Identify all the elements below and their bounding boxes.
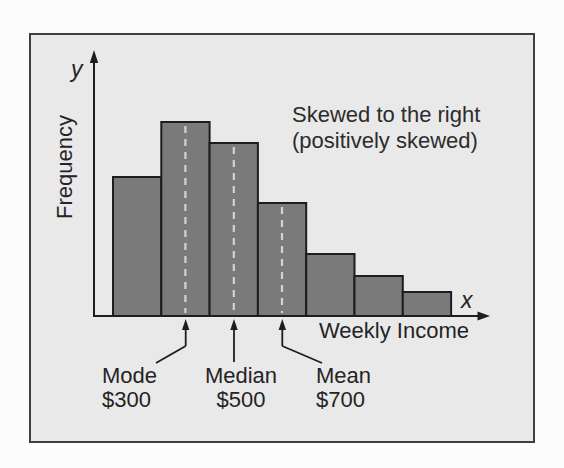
y-axis-label: Frequency [52, 115, 78, 219]
median-callout: Median $500 [202, 364, 280, 412]
skew-annotation-line1: Skewed to the right [292, 102, 480, 128]
mean-label: Mean [316, 364, 371, 388]
mode-callout: Mode $300 [102, 364, 157, 412]
histogram-svg [0, 0, 564, 468]
x-axis-label: Weekly Income [319, 318, 469, 344]
histogram-bar [403, 292, 451, 316]
x-axis-symbol: x [461, 287, 473, 314]
histogram-bar [355, 276, 403, 316]
mode-label: Mode [102, 364, 157, 388]
mean-callout-arrow [279, 319, 322, 363]
histogram-bar [113, 177, 161, 316]
mean-callout: Mean $700 [316, 364, 371, 412]
median-value: $500 [202, 388, 280, 412]
median-label: Median [202, 364, 280, 388]
y-axis-arrowhead-icon [90, 50, 98, 63]
figure-stage: y Frequency Skewed to the right (positiv… [0, 0, 564, 468]
mode-arrow-diagonal [156, 346, 186, 363]
mean-value: $700 [316, 388, 371, 412]
skew-annotation: Skewed to the right (positively skewed) [292, 102, 480, 154]
median-callout-arrow [230, 319, 237, 362]
x-axis-arrowhead-icon [478, 312, 491, 321]
y-axis-symbol: y [71, 56, 83, 83]
mode-value: $300 [102, 388, 157, 412]
mean-arrow-diagonal [282, 346, 322, 363]
mode-callout-arrow [156, 319, 189, 363]
skew-annotation-line2: (positively skewed) [292, 128, 480, 154]
histogram-bar [306, 254, 354, 316]
